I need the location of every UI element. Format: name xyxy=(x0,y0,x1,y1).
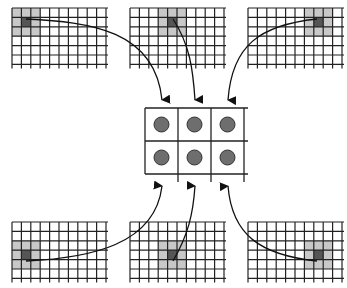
feature-map-bottom-right xyxy=(248,222,344,282)
feature-map-top-center xyxy=(130,8,226,68)
arrow-from-top-right xyxy=(228,19,317,100)
receptive-field-diagram xyxy=(0,0,347,288)
center-cell xyxy=(314,250,323,259)
neuron-icon xyxy=(154,117,169,132)
neuron-icon xyxy=(220,117,235,132)
output-neuron-grid xyxy=(145,108,248,182)
neuron-icon xyxy=(220,150,235,165)
feature-map-top-left xyxy=(12,8,108,68)
center-cell xyxy=(21,250,30,259)
neuron-icon xyxy=(154,150,169,165)
neuron-icon xyxy=(187,117,202,132)
arrow-from-top-left xyxy=(26,19,162,100)
center-cell xyxy=(168,250,177,259)
neuron-icon xyxy=(187,150,202,165)
feature-map-top-right xyxy=(248,8,344,68)
